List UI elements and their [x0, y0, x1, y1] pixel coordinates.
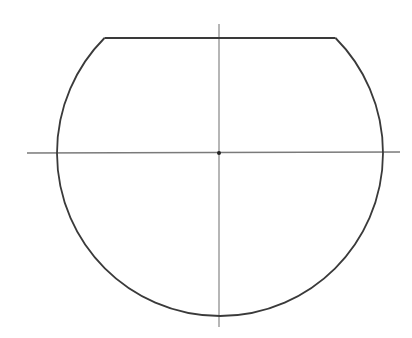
- diagram-layer: [27, 24, 400, 327]
- diagram-canvas: [0, 0, 412, 338]
- center-point: [217, 151, 221, 155]
- horizontal-centerline: [27, 152, 400, 153]
- truncated-circle-outline: [57, 38, 383, 316]
